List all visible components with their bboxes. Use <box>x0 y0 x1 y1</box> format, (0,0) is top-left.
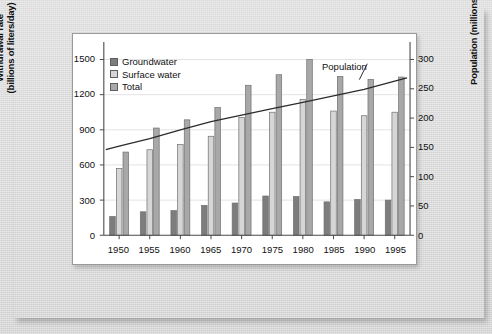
y-axis-left-tick-label-900: 900 <box>59 124 95 135</box>
chart-legend: GroundwaterSurface waterTotal <box>110 56 181 94</box>
bar-surface-water-1980 <box>300 99 306 235</box>
bar-total-1970 <box>245 85 251 235</box>
y-axis-right-tick-label-250: 250 <box>418 82 454 93</box>
x-axis-tick-label-1995: 1995 <box>378 244 414 255</box>
bar-group-1975 <box>263 75 282 236</box>
y-axis-right-tick-label-200: 200 <box>418 112 454 123</box>
bar-surface-water-1985 <box>331 111 337 235</box>
bar-surface-water-1950 <box>116 168 122 235</box>
bar-total-1985 <box>337 76 343 235</box>
y-axis-right-tick-label-0: 0 <box>418 230 454 241</box>
y-axis-right-title: Population (millions) <box>468 0 479 100</box>
y-axis-left-tick-label-1500: 1500 <box>59 53 95 64</box>
y-axis-right-tick-label-150: 150 <box>418 141 454 152</box>
y-axis-left-title-line2: (billions of liters/day) <box>5 0 16 108</box>
bar-total-1980 <box>307 60 313 236</box>
y-axis-left-tick-label-300: 300 <box>59 195 95 206</box>
bar-groundwater-1970 <box>232 203 238 235</box>
bar-groundwater-1965 <box>202 205 208 235</box>
bar-group-1970 <box>232 85 251 235</box>
bar-total-1965 <box>215 108 221 236</box>
bar-surface-water-1965 <box>208 136 214 235</box>
legend-label: Total <box>122 81 142 92</box>
legend-item-surface-water: Surface water <box>110 69 181 80</box>
bar-surface-water-1995 <box>392 112 398 235</box>
bar-total-1990 <box>368 79 374 235</box>
y-axis-left-tick-label-600: 600 <box>59 159 95 170</box>
bar-total-1975 <box>276 75 282 236</box>
bar-total-1960 <box>184 120 190 235</box>
bar-group-1960 <box>171 120 190 235</box>
population-annotation-label: Population <box>322 61 367 72</box>
y-axis-left-tick-label-0: 0 <box>59 230 95 241</box>
bar-group-1965 <box>202 108 221 236</box>
bar-group-1990 <box>355 79 374 235</box>
bar-group-1995 <box>385 77 404 235</box>
bar-total-1950 <box>123 152 129 235</box>
bar-surface-water-1955 <box>147 150 153 236</box>
bar-groundwater-1975 <box>263 196 269 235</box>
bar-total-1955 <box>154 128 160 235</box>
legend-item-groundwater: Groundwater <box>110 56 181 67</box>
bar-groundwater-1990 <box>355 200 361 236</box>
bar-surface-water-1960 <box>178 144 184 235</box>
y-axis-right-tick-label-100: 100 <box>418 171 454 182</box>
y-axis-left-tick-label-1200: 1200 <box>59 88 95 99</box>
bar-group-1955 <box>140 128 159 235</box>
bar-surface-water-1990 <box>361 116 367 236</box>
legend-swatch-icon <box>110 70 118 78</box>
y-axis-left-title: Withdrawal rate (billions of liters/day) <box>0 0 16 108</box>
legend-label: Groundwater <box>122 56 177 67</box>
legend-label: Surface water <box>122 69 181 80</box>
bar-total-1995 <box>399 77 405 235</box>
bar-groundwater-1950 <box>110 217 116 236</box>
legend-item-total: Total <box>110 81 181 92</box>
bar-surface-water-1970 <box>239 118 245 236</box>
legend-swatch-icon <box>110 83 118 91</box>
bar-group-1980 <box>293 60 312 236</box>
y-axis-right-tick-label-50: 50 <box>418 200 454 211</box>
bar-group-1985 <box>324 76 343 235</box>
bar-groundwater-1980 <box>293 197 299 236</box>
bar-surface-water-1975 <box>269 112 275 235</box>
y-axis-right-tick-label-300: 300 <box>418 53 454 64</box>
bar-groundwater-1995 <box>385 200 391 235</box>
bar-groundwater-1985 <box>324 202 330 235</box>
legend-swatch-icon <box>110 58 118 66</box>
bar-groundwater-1955 <box>140 212 146 235</box>
bar-groundwater-1960 <box>171 211 177 236</box>
